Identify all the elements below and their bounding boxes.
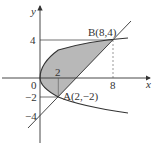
tick-x-8: 8 [110, 79, 116, 91]
y-axis-label: y [30, 5, 36, 17]
tick-y-4: 4 [30, 34, 36, 46]
origin-label: 0 [31, 79, 37, 91]
tick-y-neg2: −2 [25, 91, 37, 103]
tick-x-2: 2 [55, 66, 61, 78]
diagram-canvas: y x 0 2 8 4 −2 −4 B(8,4) A(2,−2) [0, 0, 155, 150]
x-axis-label: x [145, 78, 151, 90]
point-b-label: B(8,4) [88, 26, 117, 39]
tick-y-neg4: −4 [25, 110, 37, 122]
point-a-label: A(2,−2) [63, 90, 99, 103]
shaded-region-fill [40, 40, 113, 97]
